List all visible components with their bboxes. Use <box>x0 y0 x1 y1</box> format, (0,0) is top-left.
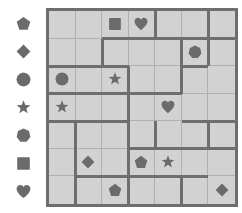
grid-cell-r2c5[interactable] <box>155 39 182 67</box>
cage-edge-horizontal-5 <box>129 92 182 95</box>
cage-edge-horizontal-11 <box>76 175 129 178</box>
grid-cell-r7c2[interactable] <box>76 176 103 204</box>
cage-edge-vertical-12 <box>207 39 210 67</box>
grid-cell-r3c5[interactable] <box>155 66 182 94</box>
cage-edge-vertical-0 <box>101 39 104 67</box>
grid-cell-r5c3[interactable] <box>102 121 129 149</box>
grid-cell-r3c4[interactable] <box>129 66 156 94</box>
grid-cell-r2c7[interactable] <box>208 39 235 67</box>
cage-edge-vertical-4 <box>180 66 183 94</box>
grid-cell-r2c1[interactable] <box>49 39 76 67</box>
grid-cell-r1c2[interactable] <box>76 11 103 39</box>
grid-cell-r3c1[interactable] <box>49 66 76 94</box>
legend-item-pentagon[interactable] <box>0 9 46 37</box>
star-icon <box>55 100 69 114</box>
grid-cell-r3c6[interactable] <box>182 66 209 94</box>
cage-edge-horizontal-12 <box>129 175 209 178</box>
grid-cell-r5c4[interactable] <box>129 121 156 149</box>
cage-edge-horizontal-6 <box>49 92 129 95</box>
diamond-icon <box>16 44 31 59</box>
grid-cell-r1c7[interactable] <box>208 11 235 39</box>
hexagon-icon <box>188 45 202 59</box>
grid-cell-r7c7[interactable] <box>208 176 235 204</box>
cage-edge-vertical-2 <box>180 39 183 67</box>
grid-cell-r6c1[interactable] <box>49 149 76 177</box>
heart-icon <box>134 17 148 31</box>
grid-cell-r6c6[interactable] <box>182 149 209 177</box>
shape-legend <box>0 9 46 206</box>
grid-cell-r4c6[interactable] <box>182 94 209 122</box>
pentagon-icon <box>16 16 31 31</box>
grid-cell-r4c1[interactable] <box>49 94 76 122</box>
pentagon-icon <box>134 155 148 169</box>
square-icon <box>16 156 31 171</box>
cage-edge-vertical-1 <box>154 11 157 39</box>
grid-cell-r5c5[interactable] <box>155 121 182 149</box>
cage-edge-horizontal-7 <box>49 120 129 123</box>
puzzle-grid[interactable] <box>49 11 235 204</box>
grid-cell-r2c6[interactable] <box>182 39 209 67</box>
grid-cell-r4c3[interactable] <box>102 94 129 122</box>
grid-cell-r1c5[interactable] <box>155 11 182 39</box>
cage-edge-vertical-6 <box>127 149 130 204</box>
grid-cell-r4c2[interactable] <box>76 94 103 122</box>
grid-cell-r7c6[interactable] <box>182 176 209 204</box>
cage-edge-horizontal-1 <box>155 37 235 40</box>
grid-frame <box>46 8 238 207</box>
legend-item-heart[interactable] <box>0 178 46 206</box>
grid-cell-r6c5[interactable] <box>155 149 182 177</box>
cage-edge-vertical-7 <box>154 121 157 149</box>
legend-item-square[interactable] <box>0 150 46 178</box>
cage-edge-vertical-3 <box>127 66 130 121</box>
grid-cell-r5c6[interactable] <box>182 121 209 149</box>
grid-cell-r1c4[interactable] <box>129 11 156 39</box>
circle-icon <box>16 72 31 87</box>
grid-cell-r2c2[interactable] <box>76 39 103 67</box>
diamond-icon <box>215 183 229 197</box>
grid-cell-r7c5[interactable] <box>155 176 182 204</box>
grid-cell-r6c2[interactable] <box>76 149 103 177</box>
legend-item-hexagon[interactable] <box>0 122 46 150</box>
grid-cell-r1c1[interactable] <box>49 11 76 39</box>
grid-cell-r4c5[interactable] <box>155 94 182 122</box>
grid-cell-r6c4[interactable] <box>129 149 156 177</box>
grid-cell-r3c2[interactable] <box>76 66 103 94</box>
grid-cell-r2c4[interactable] <box>129 39 156 67</box>
cage-edge-vertical-8 <box>127 121 130 149</box>
grid-cell-r7c3[interactable] <box>102 176 129 204</box>
cage-edge-horizontal-2 <box>49 65 76 68</box>
grid-cell-r3c3[interactable] <box>102 66 129 94</box>
cage-edge-vertical-11 <box>207 121 210 149</box>
grid-cell-r6c7[interactable] <box>208 149 235 177</box>
grid-cell-r2c3[interactable] <box>102 39 129 67</box>
hexagon-icon <box>16 128 31 143</box>
grid-cell-r5c2[interactable] <box>76 121 103 149</box>
square-icon <box>108 17 122 31</box>
grid-cell-r4c7[interactable] <box>208 94 235 122</box>
grid-cell-r1c6[interactable] <box>182 11 209 39</box>
grid-cell-r7c1[interactable] <box>49 176 76 204</box>
star-icon <box>161 155 175 169</box>
legend-item-diamond[interactable] <box>0 37 46 65</box>
cage-edge-horizontal-9 <box>129 147 156 150</box>
star-icon <box>108 72 122 86</box>
cage-edge-vertical-5 <box>74 121 77 204</box>
cage-edge-vertical-9 <box>180 176 183 204</box>
circle-icon <box>55 72 69 86</box>
legend-item-circle[interactable] <box>0 65 46 93</box>
heart-icon <box>16 184 31 199</box>
pentagon-icon <box>108 183 122 197</box>
heart-icon <box>161 100 175 114</box>
grid-cell-r1c3[interactable] <box>102 11 129 39</box>
grid-cell-r5c7[interactable] <box>208 121 235 149</box>
diamond-icon <box>81 155 95 169</box>
legend-item-star[interactable] <box>0 93 46 121</box>
grid-cell-r7c4[interactable] <box>129 176 156 204</box>
star-icon <box>16 100 31 115</box>
cage-edge-horizontal-3 <box>182 65 209 68</box>
puzzle-root <box>0 0 242 213</box>
grid-cell-r3c7[interactable] <box>208 66 235 94</box>
grid-cell-r4c4[interactable] <box>129 94 156 122</box>
grid-cell-r6c3[interactable] <box>102 149 129 177</box>
grid-cell-r5c1[interactable] <box>49 121 76 149</box>
